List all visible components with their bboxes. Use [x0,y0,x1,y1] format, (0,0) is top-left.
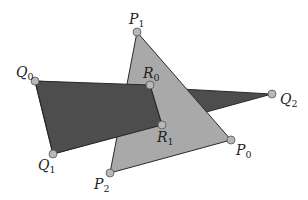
label-p0: P0 [235,142,251,160]
label-p1: P1 [128,11,144,29]
vertex-p0-marker [227,136,235,144]
vertex-q2-marker [268,90,276,98]
vertex-p1-marker [133,28,141,36]
vertex-p2-marker [106,169,114,177]
diagram-canvas: P1Q0R0Q2R1P0Q1P2 [0,0,308,200]
label-q0: Q0 [16,64,34,82]
label-q1: Q1 [38,157,56,175]
label-q2: Q2 [280,91,298,109]
label-p2: P2 [93,176,109,194]
triangle-intersection-diagram: P1Q0R0Q2R1P0Q1P2 [0,0,308,200]
vertex-q1-marker [49,150,57,158]
vertex-r1-marker [158,121,166,129]
